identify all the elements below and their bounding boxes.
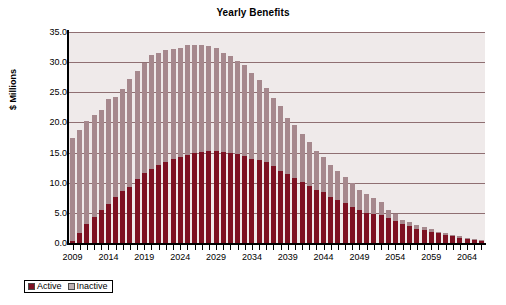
legend-item-inactive[interactable]: Inactive — [68, 281, 108, 291]
bar-segment-active[interactable] — [92, 217, 97, 243]
bar-column[interactable] — [285, 32, 290, 243]
bar-segment-active[interactable] — [379, 215, 384, 243]
bar-segment-active[interactable] — [192, 153, 197, 243]
bar-segment-active[interactable] — [314, 190, 319, 243]
bar-segment-active[interactable] — [99, 210, 104, 243]
bar-segment-active[interactable] — [407, 226, 412, 243]
bar-segment-active[interactable] — [84, 224, 89, 243]
bar-segment-active[interactable] — [120, 191, 125, 243]
bar-column[interactable] — [307, 32, 312, 243]
bar-segment-active[interactable] — [257, 160, 262, 243]
bar-column[interactable] — [99, 32, 104, 243]
bar-segment-active[interactable] — [163, 162, 168, 243]
bar-column[interactable] — [328, 32, 333, 243]
bar-segment-active[interactable] — [393, 221, 398, 243]
bar-segment-active[interactable] — [371, 214, 376, 243]
bar-segment-active[interactable] — [106, 204, 111, 243]
bar-segment-active[interactable] — [206, 151, 211, 243]
bar-segment-active[interactable] — [214, 151, 219, 243]
bar-segment-inactive[interactable] — [70, 138, 75, 244]
bar-column[interactable] — [436, 32, 441, 243]
bar-segment-active[interactable] — [328, 197, 333, 243]
bar-column[interactable] — [379, 32, 384, 243]
bar-column[interactable] — [135, 32, 140, 243]
bar-column[interactable] — [472, 32, 477, 243]
bar-segment-active[interactable] — [171, 159, 176, 243]
bar-column[interactable] — [178, 32, 183, 243]
bar-column[interactable] — [142, 32, 147, 243]
bar-column[interactable] — [364, 32, 369, 243]
bar-column[interactable] — [206, 32, 211, 243]
bar-segment-active[interactable] — [235, 154, 240, 243]
bar-segment-active[interactable] — [422, 230, 427, 243]
bar-column[interactable] — [465, 32, 470, 243]
bar-column[interactable] — [457, 32, 462, 243]
bar-column[interactable] — [343, 32, 348, 243]
bar-segment-active[interactable] — [185, 155, 190, 243]
bar-column[interactable] — [106, 32, 111, 243]
bar-column[interactable] — [264, 32, 269, 243]
bar-column[interactable] — [84, 32, 89, 243]
bar-column[interactable] — [350, 32, 355, 243]
bar-column[interactable] — [357, 32, 362, 243]
bar-segment-active[interactable] — [357, 210, 362, 243]
bar-column[interactable] — [300, 32, 305, 243]
bar-segment-active[interactable] — [285, 174, 290, 243]
bar-column[interactable] — [235, 32, 240, 243]
bar-segment-active[interactable] — [249, 159, 254, 243]
bar-column[interactable] — [335, 32, 340, 243]
bar-segment-active[interactable] — [400, 224, 405, 243]
bar-column[interactable] — [127, 32, 132, 243]
bar-segment-active[interactable] — [443, 235, 448, 243]
bar-column[interactable] — [192, 32, 197, 243]
bar-column[interactable] — [77, 32, 82, 243]
bar-segment-active[interactable] — [264, 162, 269, 243]
bar-column[interactable] — [113, 32, 118, 243]
bar-segment-active[interactable] — [135, 179, 140, 243]
bar-column[interactable] — [163, 32, 168, 243]
bar-column[interactable] — [321, 32, 326, 243]
bar-column[interactable] — [443, 32, 448, 243]
bar-segment-active[interactable] — [113, 197, 118, 243]
bar-segment-active[interactable] — [77, 233, 82, 243]
bar-segment-active[interactable] — [436, 233, 441, 243]
bar-column[interactable] — [257, 32, 262, 243]
bar-segment-active[interactable] — [300, 182, 305, 243]
bar-segment-active[interactable] — [307, 186, 312, 243]
bar-column[interactable] — [199, 32, 204, 243]
legend-item-active[interactable]: Active — [28, 281, 62, 291]
bar-column[interactable] — [92, 32, 97, 243]
bar-column[interactable] — [149, 32, 154, 243]
bar-column[interactable] — [120, 32, 125, 243]
bar-segment-active[interactable] — [450, 236, 455, 243]
bar-segment-active[interactable] — [271, 166, 276, 243]
bar-column[interactable] — [70, 32, 75, 243]
bar-segment-active[interactable] — [321, 192, 326, 243]
bar-segment-active[interactable] — [142, 173, 147, 243]
bar-segment-active[interactable] — [156, 165, 161, 243]
bar-column[interactable] — [221, 32, 226, 243]
bar-column[interactable] — [407, 32, 412, 243]
bar-column[interactable] — [371, 32, 376, 243]
bar-column[interactable] — [292, 32, 297, 243]
bar-column[interactable] — [400, 32, 405, 243]
bar-column[interactable] — [171, 32, 176, 243]
bar-segment-active[interactable] — [149, 169, 154, 243]
bar-column[interactable] — [278, 32, 283, 243]
bar-column[interactable] — [249, 32, 254, 243]
bar-column[interactable] — [228, 32, 233, 243]
bar-column[interactable] — [393, 32, 398, 243]
bar-segment-active[interactable] — [221, 152, 226, 243]
bar-column[interactable] — [429, 32, 434, 243]
bar-segment-active[interactable] — [127, 187, 132, 243]
bar-column[interactable] — [422, 32, 427, 243]
bar-segment-inactive[interactable] — [77, 130, 82, 243]
bar-column[interactable] — [414, 32, 419, 243]
bar-segment-active[interactable] — [414, 229, 419, 243]
bar-column[interactable] — [314, 32, 319, 243]
bar-segment-active[interactable] — [343, 203, 348, 243]
bar-segment-active[interactable] — [278, 171, 283, 243]
bar-segment-active[interactable] — [429, 232, 434, 243]
bar-segment-active[interactable] — [364, 213, 369, 243]
bar-segment-active[interactable] — [228, 153, 233, 243]
